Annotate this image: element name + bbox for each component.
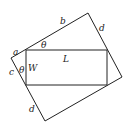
- label-L: L: [62, 54, 69, 64]
- geometry-diagram: a b d θ L c θ W d: [0, 0, 125, 125]
- label-theta-left: θ: [19, 65, 25, 75]
- diagram-canvas: a b d θ L c θ W d: [0, 0, 125, 125]
- label-a: a: [13, 47, 18, 57]
- label-d-top: d: [99, 23, 105, 33]
- label-W: W: [28, 63, 38, 73]
- label-b: b: [60, 16, 66, 26]
- label-c: c: [9, 67, 14, 77]
- label-d-bottom: d: [29, 104, 35, 114]
- label-theta-top: θ: [41, 40, 47, 50]
